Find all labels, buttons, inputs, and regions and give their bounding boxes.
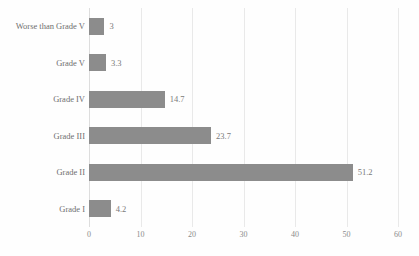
y-axis-labels: Worse than Grade VGrade VGrade IVGrade I… bbox=[0, 8, 85, 227]
bar-row[interactable]: 3 bbox=[89, 8, 398, 45]
bar-row[interactable]: 3.3 bbox=[89, 45, 398, 82]
bar-row[interactable]: 14.7 bbox=[89, 81, 398, 118]
bar-value-label: 23.7 bbox=[216, 132, 231, 141]
bar-row[interactable]: 23.7 bbox=[89, 118, 398, 155]
category-label: Grade II bbox=[1, 168, 85, 177]
x-tick-label: 20 bbox=[188, 231, 196, 239]
category-label: Worse than Grade V bbox=[1, 22, 85, 31]
bar-value-label: 3.3 bbox=[111, 59, 122, 68]
bar-row[interactable]: 51.2 bbox=[89, 154, 398, 191]
x-axis: 0102030405060 bbox=[89, 227, 398, 247]
x-tick-label: 40 bbox=[291, 231, 299, 239]
x-tick-label: 50 bbox=[343, 231, 351, 239]
bar[interactable]: 14.7 bbox=[89, 91, 165, 108]
gridline bbox=[398, 8, 399, 227]
category-label: Grade III bbox=[1, 132, 85, 141]
x-tick-label: 0 bbox=[87, 231, 91, 239]
bar[interactable]: 51.2 bbox=[89, 164, 353, 181]
bar-value-label: 51.2 bbox=[358, 168, 373, 177]
bar[interactable]: 3.3 bbox=[89, 54, 106, 71]
bar-row[interactable]: 4.2 bbox=[89, 191, 398, 228]
bar[interactable]: 3 bbox=[89, 18, 104, 35]
bar-value-label: 4.2 bbox=[116, 205, 127, 214]
x-tick-label: 30 bbox=[240, 231, 248, 239]
category-label: Grade V bbox=[1, 59, 85, 68]
bar-value-label: 3 bbox=[109, 22, 113, 31]
x-tick-label: 60 bbox=[394, 231, 402, 239]
bar[interactable]: 23.7 bbox=[89, 127, 211, 144]
x-tick-label: 10 bbox=[137, 231, 145, 239]
bar-chart: Worse than Grade VGrade VGrade IVGrade I… bbox=[0, 0, 419, 256]
category-label: Grade IV bbox=[1, 95, 85, 104]
plot-area: 33.314.723.751.24.2 bbox=[89, 8, 398, 227]
bar[interactable]: 4.2 bbox=[89, 200, 111, 217]
category-label: Grade I bbox=[1, 205, 85, 214]
bar-value-label: 14.7 bbox=[170, 95, 185, 104]
